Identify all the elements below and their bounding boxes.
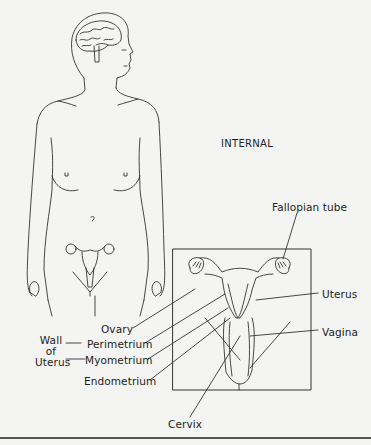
torso-left [27, 124, 37, 296]
inset-box [173, 249, 311, 390]
label-perimetrium: Perimetrium [87, 338, 153, 350]
label-myometrium: Myometrium [85, 354, 153, 366]
label-ovary: Ovary [101, 323, 133, 335]
label-vagina: Vagina [322, 326, 358, 338]
neck-left [37, 78, 85, 124]
leader-uterus [256, 293, 318, 300]
section-label-internal: INTERNAL [221, 138, 273, 150]
torso-right [159, 122, 165, 296]
neck-right [116, 88, 159, 122]
anatomy-illustration [0, 0, 371, 445]
leader-endometrium [150, 318, 230, 380]
label-fallopian-tube: Fallopian tube [272, 201, 347, 213]
leader-fallopian-tube [283, 213, 297, 259]
leader-vagina [250, 330, 318, 336]
small-uterus-icon [66, 244, 114, 296]
label-uterus: Uterus [322, 288, 357, 300]
wall-line-3: Uterus [35, 357, 67, 368]
label-cervix: Cervix [168, 418, 202, 430]
head-outline [72, 13, 134, 88]
label-wall-of-uterus: Wall of Uterus [35, 335, 67, 368]
brain-icon [76, 21, 121, 62]
label-endometrium: Endometrium [84, 375, 156, 387]
leader-cervix [190, 336, 240, 417]
